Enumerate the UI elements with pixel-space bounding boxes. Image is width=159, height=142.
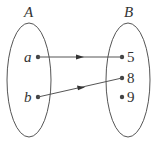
set-b-label: B [124,4,133,20]
arrowhead-icon [76,55,84,60]
element-5-label: 5 [127,49,135,65]
element-9-dot [120,95,124,99]
element-9-label: 9 [127,89,135,105]
element-b-label: b [24,89,32,105]
set-a-label: A [23,4,34,20]
element-a-label: a [24,49,32,65]
element-8-label: 8 [127,70,135,86]
mapping-diagram: A B a b 5 8 9 [0,0,159,142]
set-a-ellipse [7,23,51,137]
